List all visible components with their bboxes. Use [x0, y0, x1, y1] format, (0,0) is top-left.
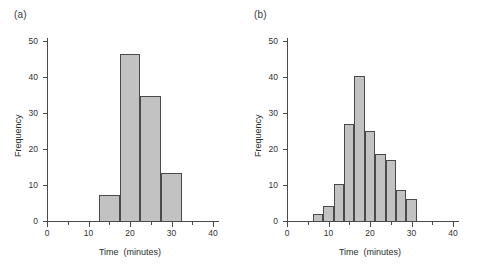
x-tick	[453, 222, 454, 227]
y-tick-label: 0	[16, 217, 38, 225]
x-tick	[412, 222, 413, 227]
y-tick-label: 40	[16, 73, 38, 81]
histogram-b: 01020304050010203040Time (minutes)Freque…	[240, 0, 480, 275]
x-tick	[151, 222, 152, 225]
y-tick	[43, 113, 47, 114]
x-tick	[432, 222, 433, 225]
y-tick	[43, 149, 47, 150]
y-tick	[283, 113, 287, 114]
x-tick	[192, 222, 193, 225]
panel-b: (b) 01020304050010203040Time (minutes)Fr…	[240, 0, 480, 275]
histogram-bar	[120, 54, 141, 222]
y-axis-title: Frequency	[13, 114, 23, 157]
y-tick	[283, 149, 287, 150]
x-tick-label: 30	[160, 229, 184, 238]
x-tick	[391, 222, 392, 225]
x-axis-title: Time (minutes)	[27, 247, 233, 257]
x-tick	[172, 222, 173, 227]
y-tick-label: 50	[256, 37, 278, 45]
histogram-bar	[99, 195, 120, 222]
x-tick-label: 0	[35, 229, 59, 238]
y-tick-label: 10	[256, 181, 278, 189]
y-tick	[43, 77, 47, 78]
histogram-bar	[344, 124, 354, 222]
histogram-bar	[140, 96, 161, 222]
y-tick	[283, 41, 287, 42]
y-tick-label: 10	[16, 181, 38, 189]
x-tick-label: 40	[441, 229, 465, 238]
x-tick	[308, 222, 309, 225]
y-tick	[283, 185, 287, 186]
x-tick	[89, 222, 90, 227]
y-axis-line	[47, 38, 48, 221]
histogram-bar	[354, 76, 364, 222]
y-tick	[283, 77, 287, 78]
y-tick-label: 40	[256, 73, 278, 81]
y-tick-label: 50	[16, 37, 38, 45]
x-tick	[47, 222, 48, 227]
histogram-bar	[396, 190, 406, 222]
x-tick	[213, 222, 214, 227]
x-tick-label: 0	[275, 229, 299, 238]
x-tick	[329, 222, 330, 227]
x-tick-label: 10	[317, 229, 341, 238]
x-tick-label: 20	[358, 229, 382, 238]
x-tick	[287, 222, 288, 227]
x-tick	[68, 222, 69, 225]
y-tick-label: 0	[256, 217, 278, 225]
x-tick	[370, 222, 371, 227]
histogram-bar	[313, 214, 323, 222]
histogram-bar	[375, 154, 385, 222]
panel-a: (a) 01020304050010203040Time (minutes)Fr…	[0, 0, 240, 275]
x-tick-label: 30	[400, 229, 424, 238]
x-tick-label: 40	[201, 229, 225, 238]
x-axis-title: Time (minutes)	[267, 247, 473, 257]
histogram-a: 01020304050010203040Time (minutes)Freque…	[0, 0, 240, 275]
x-tick	[349, 222, 350, 225]
histogram-bar	[365, 131, 375, 222]
y-tick	[43, 41, 47, 42]
y-axis-title: Frequency	[253, 114, 263, 157]
histogram-bar	[323, 206, 333, 222]
y-tick	[43, 185, 47, 186]
x-tick-label: 20	[118, 229, 142, 238]
x-tick	[130, 222, 131, 227]
histogram-bar	[386, 160, 396, 222]
histogram-bar	[334, 184, 344, 222]
histogram-bar	[406, 199, 416, 222]
x-tick-label: 10	[77, 229, 101, 238]
x-tick	[109, 222, 110, 225]
histogram-bar	[161, 173, 182, 222]
y-axis-line	[287, 38, 288, 221]
